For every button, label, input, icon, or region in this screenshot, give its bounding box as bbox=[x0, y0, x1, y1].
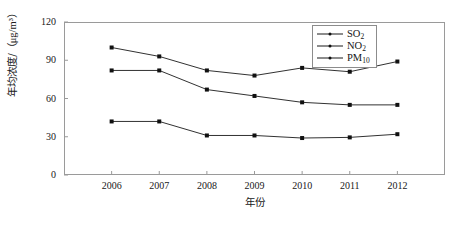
legend-label: PM10 bbox=[343, 52, 370, 65]
data-point-marker bbox=[395, 60, 399, 64]
line-chart: 1209060300 2006200720082009201020112012 … bbox=[0, 0, 466, 230]
x-tick-label: 2012 bbox=[374, 180, 420, 191]
x-tick-label: 2008 bbox=[184, 180, 230, 191]
data-point-marker bbox=[157, 54, 161, 58]
data-point-marker bbox=[205, 133, 209, 137]
data-point-marker bbox=[205, 68, 209, 72]
y-axis-title: 年均浓度/（μg/m³） bbox=[6, 0, 19, 113]
data-point-marker bbox=[348, 103, 352, 107]
data-point-marker bbox=[157, 119, 161, 123]
data-point-marker bbox=[205, 88, 209, 92]
x-axis-title: 年份 bbox=[64, 196, 445, 208]
data-point-marker bbox=[110, 119, 114, 123]
legend-marker-icon bbox=[317, 52, 343, 64]
data-point-marker bbox=[110, 46, 114, 50]
data-point-marker bbox=[300, 136, 304, 140]
data-point-marker bbox=[300, 66, 304, 70]
data-point-marker bbox=[253, 74, 257, 78]
chart-legend: SO2NO2PM10 bbox=[312, 25, 377, 68]
x-tick-label: 2011 bbox=[327, 180, 373, 191]
data-point-marker bbox=[157, 68, 161, 72]
data-point-marker bbox=[348, 135, 352, 139]
data-point-marker bbox=[395, 132, 399, 136]
legend-marker-icon bbox=[317, 40, 343, 52]
x-tick-label: 2006 bbox=[89, 180, 135, 191]
data-point-marker bbox=[110, 68, 114, 72]
legend-item-SO2[interactable]: SO2 bbox=[317, 28, 370, 40]
legend-marker-icon bbox=[317, 28, 343, 40]
x-tick-label: 2009 bbox=[232, 180, 278, 191]
legend-item-PM10[interactable]: PM10 bbox=[317, 52, 370, 64]
data-point-marker bbox=[300, 100, 304, 104]
data-point-marker bbox=[253, 94, 257, 98]
data-point-marker bbox=[253, 133, 257, 137]
data-point-marker bbox=[348, 70, 352, 74]
x-tick-label: 2010 bbox=[279, 180, 325, 191]
x-tick-label: 2007 bbox=[136, 180, 182, 191]
y-axis-title-name: 年均浓度/ bbox=[6, 53, 18, 97]
y-tick-label: 0 bbox=[0, 170, 56, 180]
data-point-marker bbox=[395, 103, 399, 107]
legend-item-NO2[interactable]: NO2 bbox=[317, 40, 370, 52]
y-axis-title-unit: （μg/m³） bbox=[7, 8, 18, 53]
y-tick-label: 30 bbox=[0, 132, 56, 142]
